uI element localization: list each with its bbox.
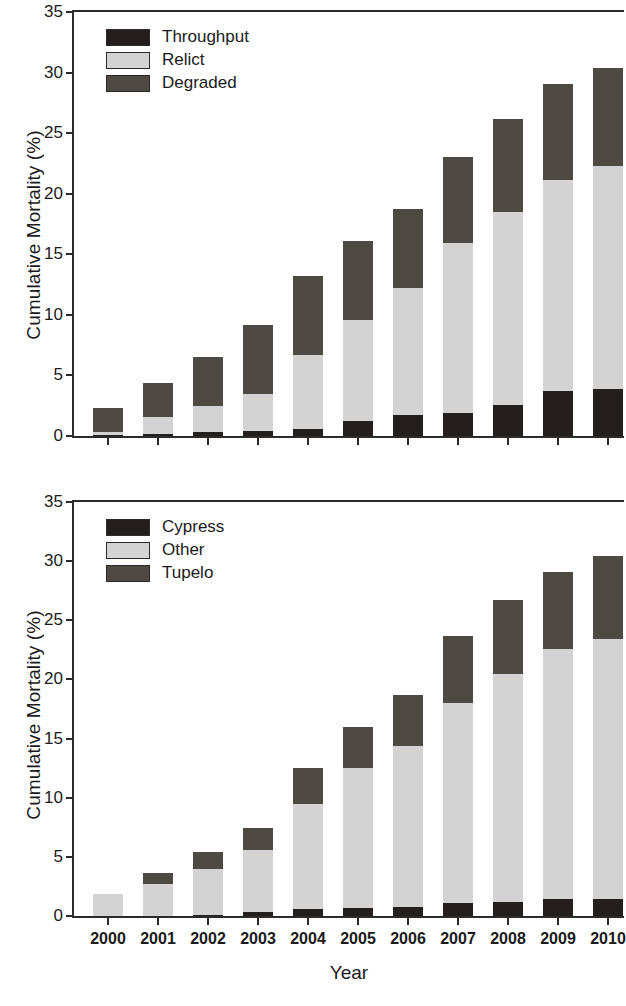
x-axis-tick bbox=[507, 916, 509, 925]
x-axis-tick bbox=[407, 436, 409, 445]
bar-segment bbox=[293, 429, 323, 436]
bar-segment bbox=[443, 636, 473, 703]
x-axis-tick bbox=[207, 916, 209, 925]
bar-segment bbox=[543, 649, 573, 900]
y-axis-tick-label: 0 bbox=[54, 426, 74, 446]
x-axis-tick bbox=[157, 916, 159, 925]
chart-panel-top: Cumulative Mortality (%) ThroughputRelic… bbox=[0, 0, 624, 470]
bar-stack bbox=[443, 157, 473, 436]
bar-segment bbox=[443, 703, 473, 903]
x-axis-tick bbox=[607, 916, 609, 925]
legend-label: Relict bbox=[162, 50, 205, 70]
chart-panel-bottom: Cumulative Mortality (%) CypressOtherTup… bbox=[0, 490, 624, 940]
bar-segment bbox=[143, 873, 173, 884]
bar-segment bbox=[343, 241, 373, 320]
bar-segment bbox=[443, 903, 473, 916]
bar-stack bbox=[493, 600, 523, 916]
bar-stack bbox=[443, 636, 473, 916]
bar-segment bbox=[93, 894, 123, 916]
legend-item: Degraded bbox=[106, 72, 249, 94]
bar-stack bbox=[343, 727, 373, 916]
y-axis-tick-label: 30 bbox=[44, 63, 74, 83]
x-axis-tick bbox=[457, 916, 459, 925]
bar-segment bbox=[543, 391, 573, 436]
bar-segment bbox=[243, 850, 273, 913]
x-axis-tick bbox=[307, 916, 309, 925]
legend-swatch-icon bbox=[106, 75, 150, 92]
x-axis-tick-label: 2003 bbox=[240, 930, 276, 948]
legend-swatch-icon bbox=[106, 565, 150, 582]
x-axis-tick-label: 2001 bbox=[140, 930, 176, 948]
bar-segment bbox=[593, 68, 623, 166]
bar-stack bbox=[243, 828, 273, 916]
y-axis-tick-label: 30 bbox=[44, 551, 74, 571]
bar-segment bbox=[543, 84, 573, 181]
y-axis-tick-label: 5 bbox=[54, 365, 74, 385]
x-axis-title: Year bbox=[74, 962, 624, 984]
bar-segment bbox=[293, 355, 323, 429]
y-axis-tick-label: 35 bbox=[44, 492, 74, 512]
bar-stack bbox=[593, 556, 623, 916]
bar-stack bbox=[93, 408, 123, 436]
legend-swatch-icon bbox=[106, 52, 150, 69]
y-axis-tick-label: 20 bbox=[44, 184, 74, 204]
bar-stack bbox=[543, 84, 573, 437]
bar-segment bbox=[393, 415, 423, 436]
x-axis-tick bbox=[257, 916, 259, 925]
x-axis-tick bbox=[557, 436, 559, 445]
y-axis-tick-label: 20 bbox=[44, 669, 74, 689]
bar-segment bbox=[493, 405, 523, 436]
bar-segment bbox=[343, 768, 373, 908]
bar-segment bbox=[543, 180, 573, 391]
bar-segment bbox=[293, 276, 323, 355]
x-axis-tick-label: 2010 bbox=[590, 930, 626, 948]
legend-label: Throughput bbox=[162, 27, 249, 47]
bar-segment bbox=[193, 357, 223, 405]
bar-segment bbox=[93, 408, 123, 432]
y-axis-label-top: Cumulative Mortality (%) bbox=[23, 105, 45, 365]
x-axis-tick bbox=[457, 436, 459, 445]
bar-stack bbox=[293, 768, 323, 916]
bar-segment bbox=[493, 902, 523, 916]
legend-item: Other bbox=[106, 539, 224, 561]
bar-stack bbox=[343, 241, 373, 436]
bar-segment bbox=[343, 727, 373, 768]
bar-segment bbox=[343, 421, 373, 436]
bar-segment bbox=[243, 325, 273, 394]
bar-stack bbox=[393, 209, 423, 436]
x-axis-tick-label: 2004 bbox=[290, 930, 326, 948]
x-axis-tick-label: 2002 bbox=[190, 930, 226, 948]
legend-item: Tupelo bbox=[106, 562, 224, 584]
bar-segment bbox=[193, 406, 223, 433]
y-axis-label-bottom: Cumulative Mortality (%) bbox=[23, 585, 45, 845]
x-axis-tick bbox=[407, 916, 409, 925]
y-axis-tick-label: 15 bbox=[44, 244, 74, 264]
bar-segment bbox=[393, 746, 423, 907]
legend-bottom: CypressOtherTupelo bbox=[106, 516, 224, 585]
bar-stack bbox=[93, 894, 123, 916]
bar-stack bbox=[193, 357, 223, 436]
bar-segment bbox=[543, 572, 573, 649]
x-axis-tick bbox=[207, 436, 209, 445]
plot-area-bottom: CypressOtherTupelo Year 0510152025303520… bbox=[72, 500, 624, 918]
bar-segment bbox=[393, 695, 423, 746]
bar-stack bbox=[143, 873, 173, 916]
bar-segment bbox=[393, 209, 423, 288]
x-axis-tick bbox=[357, 436, 359, 445]
bar-segment bbox=[443, 243, 473, 413]
legend-label: Other bbox=[162, 540, 205, 560]
x-axis-tick bbox=[607, 436, 609, 445]
bar-segment bbox=[493, 119, 523, 212]
bar-segment bbox=[593, 166, 623, 389]
legend-item: Throughput bbox=[106, 26, 249, 48]
y-axis-tick-label: 25 bbox=[44, 610, 74, 630]
x-axis-tick-label: 2009 bbox=[540, 930, 576, 948]
y-axis-tick-label: 35 bbox=[44, 2, 74, 22]
legend-swatch-icon bbox=[106, 542, 150, 559]
bar-segment bbox=[593, 639, 623, 899]
x-axis-tick bbox=[107, 436, 109, 445]
bar-segment bbox=[393, 907, 423, 916]
bar-stack bbox=[193, 852, 223, 916]
y-axis-tick-label: 0 bbox=[54, 906, 74, 926]
